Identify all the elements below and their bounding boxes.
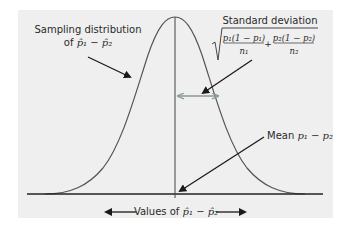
standard-deviation-title: Standard deviation — [222, 15, 317, 26]
sampling-distribution-label-line1: Sampling distribution — [35, 24, 142, 35]
axis-label: Values of p̂₁ − p̂₂ — [134, 206, 218, 217]
sd-term1-denominator: n₁ — [240, 46, 249, 56]
sd-term2-numerator: p₂(1 − p₂) — [273, 33, 315, 43]
sd-term2-denominator: n₂ — [290, 46, 299, 56]
sampling-distribution-diagram: Sampling distribution of p̂₁ − p̂₂ Stand… — [0, 0, 344, 230]
sd-term1-numerator: p₁(1 − p₁) — [223, 33, 265, 43]
sampling-distribution-label-line2: of p̂₁ − p̂₂ — [64, 37, 112, 48]
sd-plus-sign: + — [264, 39, 272, 49]
mean-label: Mean p₁ − p₂ — [267, 130, 333, 141]
